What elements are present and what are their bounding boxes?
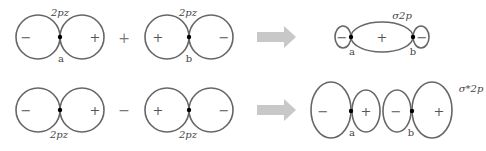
phase-sign: + (153, 103, 164, 118)
nucleus-dot (58, 35, 62, 39)
nucleus-dot (58, 108, 62, 112)
phase-sign: − (21, 30, 32, 45)
phase-sign: + (90, 30, 101, 45)
atom-label: a (349, 127, 355, 138)
orbital-label: 2pz (178, 7, 198, 18)
phase-sign: − (337, 30, 348, 45)
phase-sign: − (21, 103, 32, 118)
atom-label: b (410, 46, 416, 57)
orbital-2pz-right: + − 2pz (145, 88, 233, 140)
orbital-label: 2pz (178, 129, 198, 140)
orbital-2pz-left: − + 2pz (16, 88, 104, 140)
nucleus-dot-b (411, 35, 415, 39)
phase-sign: − (417, 30, 428, 45)
minus-operator: − (118, 102, 130, 118)
right-arrow-icon (257, 99, 296, 121)
phase-sign: + (361, 104, 372, 119)
phase-sign: − (219, 103, 230, 118)
orbital-label: 2pz (50, 7, 70, 18)
nucleus-dot (187, 108, 191, 112)
orbital-sigma-star-2p: − + − + σ*2p a b (311, 82, 484, 138)
phase-sign: − (318, 104, 329, 119)
phase-sign: + (90, 103, 101, 118)
plus-operator: + (118, 30, 130, 46)
phase-sign: + (377, 30, 388, 45)
atom-label: b (408, 127, 414, 138)
nucleus-dot-b (410, 109, 414, 113)
right-arrow-icon (257, 26, 296, 48)
mo-label: σ2p (392, 10, 412, 21)
mo-label: σ*2p (459, 83, 484, 94)
atom-label: a (349, 46, 355, 57)
lobe-plus-outer-right (412, 82, 452, 138)
row-bonding: − + 2pz a + + − 2pz b − + − σ2 (16, 7, 429, 64)
orbital-label: 2pz (49, 129, 69, 140)
orbital-2pz-a: − + 2pz a (16, 7, 104, 64)
nucleus-dot-a (349, 109, 353, 113)
phase-sign: + (434, 104, 445, 119)
mo-diagram-svg: − + 2pz a + + − 2pz b − + − σ2 (0, 0, 486, 151)
orbital-sigma-2p: − + − σ2p a b (335, 10, 429, 57)
phase-sign: + (153, 30, 164, 45)
nucleus-dot-a (349, 35, 353, 39)
phase-sign: − (219, 30, 230, 45)
phase-sign: − (391, 104, 402, 119)
nucleus-dot (187, 35, 191, 39)
mo-diagram: − + 2pz a + + − 2pz b − + − σ2 (0, 0, 486, 151)
row-antibonding: − + 2pz − + − 2pz − + − + σ*2p a (16, 82, 484, 140)
atom-label: a (58, 53, 64, 64)
orbital-2pz-b: + − 2pz b (145, 7, 233, 64)
atom-label: b (186, 53, 192, 64)
